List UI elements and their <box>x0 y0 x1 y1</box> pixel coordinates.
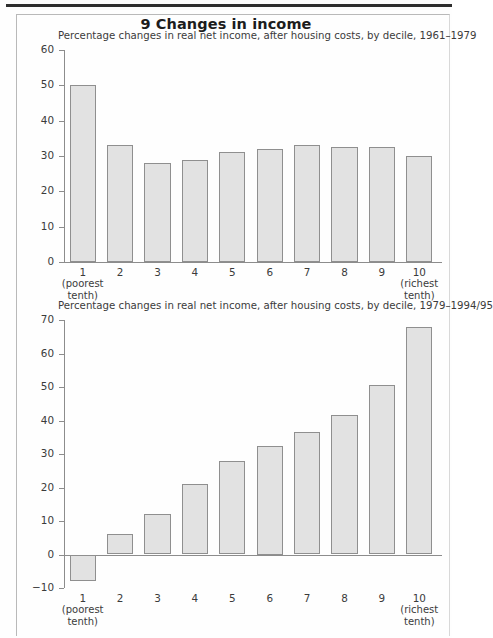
y-axis-tick <box>59 262 64 263</box>
y-axis-label: 70 <box>18 313 54 325</box>
y-axis-tick <box>59 454 64 455</box>
x-axis-note-line: (poorest <box>43 604 123 616</box>
bar <box>406 327 432 555</box>
bar <box>331 415 357 554</box>
bar <box>257 446 283 555</box>
bar <box>107 534 133 554</box>
y-axis-label: 50 <box>18 380 54 392</box>
bar <box>70 555 96 582</box>
x-axis-label: 10 <box>389 592 449 604</box>
x-axis-note-line: (poorest <box>43 278 123 290</box>
bar <box>107 145 133 262</box>
y-axis-label: 50 <box>18 78 54 90</box>
y-axis-line <box>64 50 65 262</box>
x-axis-note-line: (richest <box>379 278 459 290</box>
x-axis-line <box>64 555 442 556</box>
y-axis-tick <box>59 50 64 51</box>
y-axis-tick <box>59 354 64 355</box>
x-axis-note-line: tenth) <box>379 616 459 628</box>
chart-subtitle-1979-1994: Percentage changes in real net income, a… <box>58 300 493 311</box>
y-axis-label: 20 <box>18 184 54 196</box>
bar <box>219 152 245 262</box>
y-axis-tick <box>59 387 64 388</box>
bar <box>369 385 395 554</box>
y-axis-line <box>64 320 65 588</box>
y-axis-tick <box>59 85 64 86</box>
bar <box>257 149 283 262</box>
y-axis-tick <box>59 191 64 192</box>
y-axis-label: 0 <box>18 255 54 267</box>
x-axis-note: (richesttenth) <box>379 278 459 302</box>
y-axis-label: 0 <box>18 548 54 560</box>
x-axis-note: (pooresttenth) <box>43 604 123 628</box>
y-axis-label: 40 <box>18 114 54 126</box>
y-axis-label: 60 <box>18 347 54 359</box>
bar <box>144 163 170 262</box>
y-axis-tick <box>59 488 64 489</box>
y-axis-tick <box>59 156 64 157</box>
top-rule <box>6 4 452 7</box>
bar <box>294 432 320 554</box>
x-axis-note-line: (richest <box>379 604 459 616</box>
bar <box>70 85 96 262</box>
plot-area-1979-1994: −1001020304050607012345678910(poorestten… <box>64 320 438 588</box>
bar <box>144 514 170 554</box>
x-axis-note-line: tenth) <box>43 616 123 628</box>
y-axis-label: 20 <box>18 481 54 493</box>
y-axis-label: 40 <box>18 414 54 426</box>
y-axis-tick <box>59 588 64 589</box>
bar <box>369 147 395 262</box>
y-axis-label: 30 <box>18 149 54 161</box>
y-axis-label: 60 <box>18 43 54 55</box>
y-axis-tick <box>59 320 64 321</box>
y-axis-tick <box>59 421 64 422</box>
y-axis-label: 30 <box>18 447 54 459</box>
bar <box>406 156 432 262</box>
y-axis-tick <box>59 121 64 122</box>
bar <box>182 484 208 554</box>
x-axis-note: (pooresttenth) <box>43 278 123 302</box>
y-axis-label: 10 <box>18 220 54 232</box>
y-axis-label: 10 <box>18 514 54 526</box>
y-axis-tick <box>59 227 64 228</box>
y-axis-label: −10 <box>18 581 54 593</box>
y-axis-tick <box>59 555 64 556</box>
chart-subtitle-1961-1979: Percentage changes in real net income, a… <box>58 30 477 41</box>
x-axis-note: (richesttenth) <box>379 604 459 628</box>
y-axis-tick <box>59 521 64 522</box>
x-axis-label: 10 <box>389 266 449 278</box>
plot-area-1961-1979: 010203040506012345678910(pooresttenth)(r… <box>64 50 438 262</box>
x-axis-line <box>64 262 442 263</box>
bar <box>182 160 208 262</box>
bar <box>219 461 245 555</box>
bar <box>331 147 357 262</box>
bar <box>294 145 320 262</box>
